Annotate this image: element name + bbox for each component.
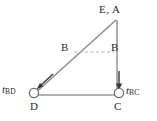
force-arrow-tbd [37, 74, 54, 90]
force-subscript-tbd: BD [5, 87, 16, 96]
structural-diagram: E, A B B D C tBD tBC [0, 0, 157, 121]
force-subscript-tbc: BC [129, 88, 139, 97]
node-label-apex: E, A [99, 4, 121, 15]
member-d-to-apex [33, 20, 116, 95]
force-label-tbc: tBC [126, 85, 139, 97]
support-circle-c [114, 88, 123, 97]
node-label-b-left: B [61, 42, 68, 53]
node-label-d: D [30, 101, 38, 112]
force-label-tbd: tBD [2, 84, 16, 96]
node-label-b-right: B [111, 42, 118, 53]
diagram-canvas [0, 0, 157, 121]
support-circle-d [29, 88, 38, 97]
node-label-c: C [114, 101, 121, 112]
